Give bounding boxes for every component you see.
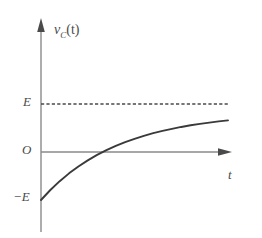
y-tick-label-E: E bbox=[23, 95, 31, 108]
y-tick-label-negative-E: −E bbox=[13, 190, 30, 203]
x-axis-arrowhead bbox=[218, 148, 232, 156]
x-axis-label: t bbox=[228, 168, 232, 181]
y-axis-label: vC(t) bbox=[54, 23, 79, 40]
capacitor-voltage-curve bbox=[41, 120, 228, 200]
capacitor-voltage-chart: vC(t) E O −E t bbox=[0, 0, 262, 238]
chart-canvas bbox=[0, 0, 262, 238]
y-axis-label-argument: (t) bbox=[66, 22, 79, 37]
origin-label: O bbox=[22, 143, 31, 156]
y-axis-arrowhead bbox=[37, 18, 45, 32]
